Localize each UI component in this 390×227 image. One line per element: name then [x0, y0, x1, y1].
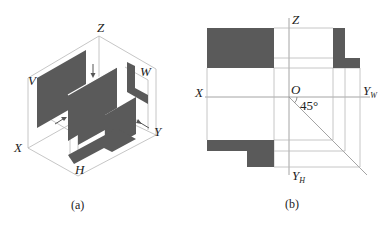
yw-subscript: W	[370, 91, 378, 100]
label-y-axis-a: Y	[154, 124, 163, 139]
label-w-plane: W	[140, 64, 152, 79]
front-view	[207, 28, 274, 68]
figure-a-isometric: Z V W X Y H (a)	[13, 20, 163, 212]
angle-arc	[295, 97, 297, 103]
label-yw-axis: YW	[363, 83, 378, 100]
label-x-axis-b: X	[194, 85, 204, 100]
label-v-plane: V	[28, 73, 38, 88]
label-z-axis-b: Z	[292, 12, 300, 27]
label-origin: O	[291, 82, 301, 97]
label-x-axis-a: X	[13, 140, 23, 155]
top-view	[207, 140, 274, 167]
label-z-axis-a: Z	[97, 20, 105, 35]
figure-b-orthographic: Z X O 45° YW YH (b)	[194, 12, 378, 211]
arrow-right-icon	[61, 117, 67, 121]
caption-a: (a)	[71, 198, 84, 212]
caption-b: (b)	[285, 197, 299, 211]
label-h-plane: H	[74, 162, 85, 177]
side-view	[333, 28, 360, 68]
yh-subscript: H	[298, 176, 306, 185]
label-angle: 45°	[300, 98, 318, 113]
projection-diagram: Z V W X Y H (a)	[0, 0, 390, 227]
label-yh-axis: YH	[292, 168, 306, 185]
arrow-down-icon	[91, 73, 96, 78]
arrow-left-icon	[136, 119, 142, 124]
